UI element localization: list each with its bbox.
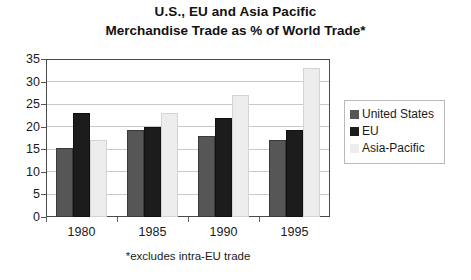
bar-eu-1995 (286, 130, 303, 217)
chart-legend: United States EU Asia-Pacific (344, 100, 445, 164)
bar-united-states-1990 (198, 136, 215, 217)
y-axis-tick-label: 25 (0, 98, 40, 110)
x-axis-tick-label: 1995 (259, 225, 330, 239)
chart-title: U.S., EU and Asia Pacific Merchandise Tr… (0, 2, 471, 40)
legend-label-eu: EU (362, 125, 379, 138)
x-axis-tick-label: 1980 (46, 225, 117, 239)
chart-title-line-2: Merchandise Trade as % of World Trade* (0, 21, 471, 40)
bar-eu-1980 (73, 113, 90, 217)
bar-united-states-1985 (127, 130, 144, 217)
chart-footnote: *excludes intra-EU trade (46, 249, 330, 263)
legend-item-united-states[interactable]: United States (350, 106, 440, 123)
legend-label-united-states: United States (362, 108, 434, 121)
chart-area: 05101520253035 1980198519901995 *exclude… (0, 48, 471, 280)
x-axis-tick-label: 1990 (188, 225, 259, 239)
bar-eu-1990 (215, 118, 232, 217)
bar-asia-pacific-1985 (161, 113, 178, 217)
y-axis-tick-label: 35 (0, 53, 40, 65)
y-axis-tick-mark (41, 82, 46, 83)
legend-swatch-icon-eu (350, 127, 359, 136)
y-axis-tick-mark (41, 217, 46, 218)
y-axis-tick-mark (41, 59, 46, 60)
bar-eu-1985 (144, 127, 161, 217)
y-axis-tick-label: 5 (0, 188, 40, 200)
x-axis-tick-mark (259, 217, 260, 222)
y-axis-tick-label: 20 (0, 121, 40, 133)
legend-swatch-icon-asia-pacific (350, 144, 359, 153)
y-axis-tick-mark (41, 104, 46, 105)
y-axis-tick-label: 0 (0, 211, 40, 223)
x-axis-tick-mark (46, 217, 47, 222)
bar-asia-pacific-1995 (303, 68, 320, 217)
x-axis-tick-label: 1985 (117, 225, 188, 239)
y-axis-tick-mark (41, 172, 46, 173)
legend-label-asia-pacific: Asia-Pacific (362, 142, 425, 155)
y-axis-tick-label: 10 (0, 166, 40, 178)
legend-item-asia-pacific[interactable]: Asia-Pacific (350, 140, 440, 157)
y-axis-tick-mark (41, 194, 46, 195)
y-axis-tick-mark (41, 149, 46, 150)
y-axis-tick-mark (41, 127, 46, 128)
bar-asia-pacific-1990 (232, 95, 249, 217)
x-axis-labels: 1980198519901995 (46, 225, 330, 243)
bars-layer (46, 59, 330, 217)
y-axis-labels: 05101520253035 (0, 48, 40, 228)
bar-united-states-1995 (269, 140, 286, 217)
x-axis-ticks (46, 217, 330, 223)
bar-asia-pacific-1980 (90, 140, 107, 217)
chart-title-line-1: U.S., EU and Asia Pacific (0, 2, 471, 21)
y-axis-tick-label: 15 (0, 143, 40, 155)
x-axis-tick-mark (188, 217, 189, 222)
legend-item-eu[interactable]: EU (350, 123, 440, 140)
legend-swatch-icon-united-states (350, 110, 359, 119)
y-axis-tick-label: 30 (0, 76, 40, 88)
x-axis-tick-mark (117, 217, 118, 222)
bar-united-states-1980 (56, 148, 73, 217)
